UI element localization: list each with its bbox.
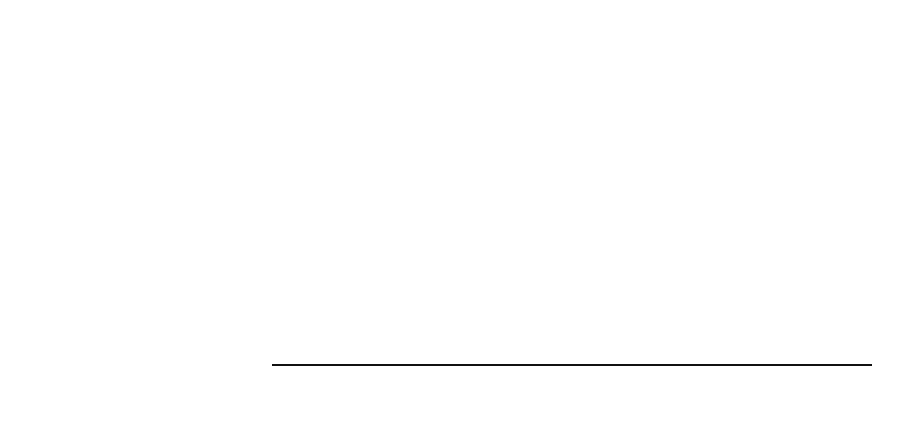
x-axis-line bbox=[272, 364, 872, 366]
